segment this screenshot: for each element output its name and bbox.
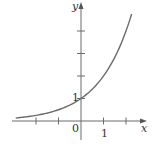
x-axis-label: x [141,122,148,135]
exponential-chart: y x 0 1 1 [0,0,157,147]
origin-label: 0 [72,122,79,135]
y-axis-arrow-icon [79,2,84,9]
x-tick-label-1: 1 [101,127,108,140]
y-axis-label: y [71,0,79,13]
y-tick-label-1: 1 [72,91,79,104]
